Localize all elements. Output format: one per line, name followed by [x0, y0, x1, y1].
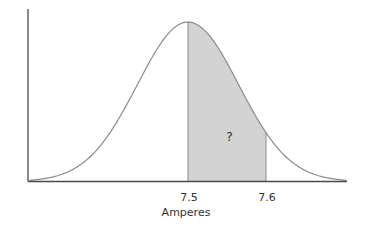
chart: 7.57.6 Amperes ? — [0, 0, 371, 228]
x-axis-label: Amperes — [162, 206, 211, 219]
x-tick-label: 7.5 — [180, 191, 198, 204]
question-mark-annotation: ? — [226, 129, 233, 144]
shaded-area — [188, 22, 266, 182]
x-tick-label: 7.6 — [258, 191, 276, 204]
